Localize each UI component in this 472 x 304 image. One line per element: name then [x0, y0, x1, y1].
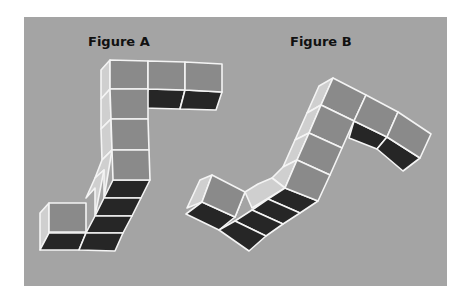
figure-b-label: Figure B — [290, 34, 352, 49]
figure-a-front-face — [110, 89, 148, 119]
figure-a-front-face — [49, 203, 86, 232]
figure-a-bottom-face — [143, 89, 185, 109]
figure-a-bottom-face — [86, 216, 132, 233]
figure-a-front-face — [110, 60, 148, 89]
figure-a-bottom-face — [79, 233, 123, 251]
figure-a-front-face — [112, 150, 150, 180]
figure-a-bottom-face — [40, 233, 86, 250]
figure-a-front-face — [111, 119, 149, 150]
figure-a-bottom-face — [104, 180, 150, 198]
figure-a-front-face — [185, 62, 222, 92]
figure-a-label: Figure A — [88, 34, 150, 49]
figure-a-bottom-face — [95, 198, 141, 216]
figure-a-bottom-face — [180, 90, 222, 110]
mental-rotation-diagram: Figure A Figure B — [0, 0, 472, 304]
figure-a-front-face — [148, 61, 185, 90]
